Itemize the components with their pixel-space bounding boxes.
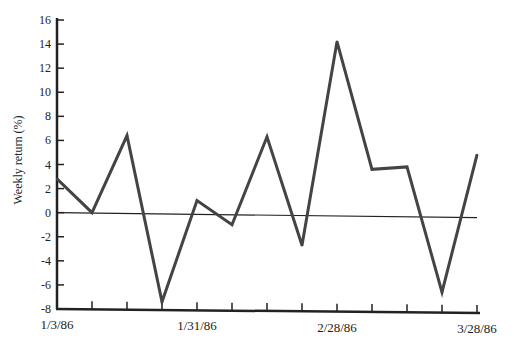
x-axis-line — [56, 309, 480, 313]
y-tick-label: 0 — [45, 206, 51, 220]
data-point — [406, 166, 408, 168]
y-tick-label: 8 — [45, 109, 51, 123]
y-tick-label: 14 — [39, 37, 51, 51]
y-tick-label: 12 — [39, 61, 51, 75]
y-tick-label: -8 — [41, 302, 51, 316]
y-tick-label: 16 — [39, 13, 51, 27]
data-point — [301, 244, 303, 246]
y-tick-label: 6 — [45, 133, 51, 147]
data-point — [91, 211, 93, 213]
data-point — [336, 40, 338, 42]
x-tick-label: 2/28/86 — [317, 320, 357, 335]
y-tick-label: -2 — [41, 230, 51, 244]
data-point — [476, 154, 478, 156]
x-axis: 1/3/861/31/862/28/863/28/86 — [40, 301, 497, 336]
series — [56, 40, 478, 302]
y-axis-title: Weekly return (%) — [11, 116, 25, 205]
data-point — [441, 291, 443, 293]
y-tick-label: 2 — [45, 182, 51, 196]
series-line — [57, 42, 477, 302]
y-tick-label: -6 — [41, 278, 51, 292]
data-point — [161, 301, 163, 303]
zero-line — [57, 213, 477, 218]
y-tick-label: 4 — [45, 158, 51, 172]
y-axis: 1614121086420-2-4-6-8 — [39, 13, 64, 316]
data-point — [231, 224, 233, 226]
y-tick-label: -4 — [41, 254, 51, 268]
y-tick-label: 10 — [39, 85, 51, 99]
x-tick-label: 1/31/86 — [177, 318, 217, 333]
data-point — [266, 136, 268, 138]
data-point — [126, 134, 128, 136]
data-point — [371, 168, 373, 170]
x-tick-label: 3/28/86 — [457, 321, 497, 336]
data-point — [56, 178, 58, 180]
zero-reference-line — [57, 213, 477, 218]
x-tick-label: 1/3/86 — [40, 317, 74, 332]
data-point — [196, 199, 198, 201]
line-chart: 1614121086420-2-4-6-8 1/3/861/31/862/28/… — [0, 0, 514, 348]
